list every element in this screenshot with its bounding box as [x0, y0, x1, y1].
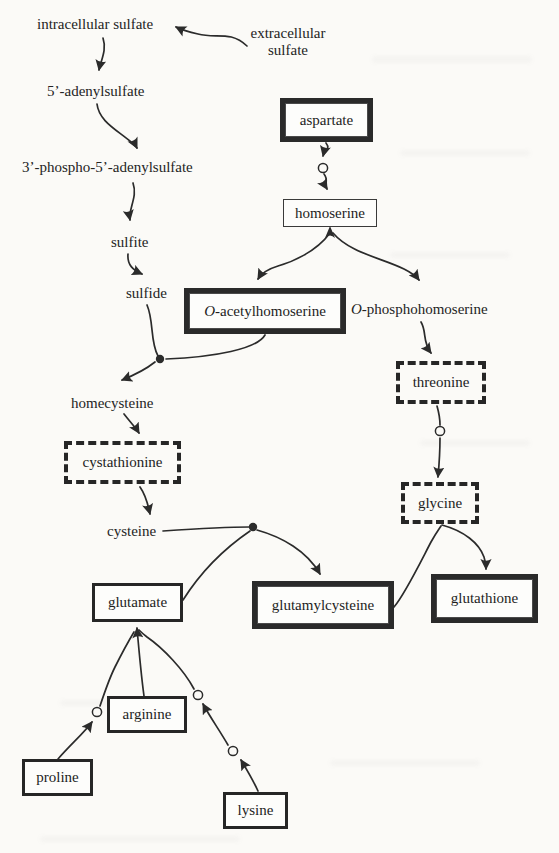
node-arginine: arginine	[107, 696, 187, 733]
node-arginine-label: arginine	[123, 706, 172, 723]
label-extracellular-sulfate: extracellular sulfate	[240, 25, 336, 60]
label-o-phosphohomoserine: O-phosphohomoserine	[351, 301, 488, 318]
node-proline: proline	[22, 759, 93, 796]
arrow-homoserine-to-acetylhomoserine	[258, 233, 330, 279]
arrow-cystathionine-to-cysteine	[140, 487, 150, 514]
node-threonine: threonine	[396, 361, 486, 404]
step-circle-aspartate-homoserine	[318, 163, 327, 172]
node-cystathionine-label: cystathionine	[83, 454, 163, 471]
node-glycine-label: glycine	[418, 495, 462, 512]
junction-dot-cysteine-glutamate	[249, 523, 257, 531]
arrow-proline-to-circle	[58, 722, 92, 759]
arrow-junction-to-homecysteine	[122, 362, 155, 380]
step-circle-lysine-path-upper	[193, 690, 202, 699]
arrow-homoserine-to-phosphohomoserine	[333, 233, 419, 280]
arrow-arginine-to-glutamate	[137, 628, 144, 696]
step-circle-lysine-path-lower	[228, 746, 237, 755]
node-lysine: lysine	[223, 792, 288, 829]
node-homoserine-label: homoserine	[295, 205, 365, 222]
node-aspartate: aspartate	[280, 98, 373, 142]
label-cysteine: cysteine	[107, 523, 156, 540]
junction-dot-sulfide-acetylhomoserine	[156, 355, 164, 363]
label-sulfite: sulfite	[111, 234, 149, 251]
label-extracellular-sulfate-line2: sulfate	[240, 42, 336, 59]
node-o-acetylhomoserine-italic: O	[204, 303, 215, 319]
node-glutamate: glutamate	[92, 583, 183, 622]
arrow-adenylsulfate-to-phospho	[97, 104, 137, 148]
node-cystathionine: cystathionine	[64, 441, 181, 484]
node-glutamylcysteine-label: glutamylcysteine	[272, 597, 374, 614]
node-glycine: glycine	[401, 482, 479, 524]
line-circle-to-glutamate-right	[139, 630, 194, 689]
node-glutamate-label: glutamate	[108, 594, 167, 611]
label-phospho-adenylsulfate: 3’-phospho-5’-adenylsulfate	[22, 159, 193, 176]
node-threonine-label: threonine	[413, 374, 470, 391]
label-extracellular-sulfate-line1: extracellular	[240, 25, 336, 42]
arrow-phosphohomoserine-to-threonine	[421, 322, 431, 353]
arrow-sulfite-to-sulfide	[128, 254, 142, 274]
arrow-circle-to-homoserine	[324, 174, 327, 189]
label-o-phosphohomoserine-italic: O	[351, 301, 362, 317]
arrow-circle-to-circle-lysine-path	[203, 704, 228, 745]
arrow-circle-to-glycine	[438, 438, 440, 477]
line-acetylhomoserine-to-junction	[166, 335, 265, 359]
node-proline-label: proline	[36, 769, 79, 786]
arrow-phospho-to-sulfite	[130, 183, 135, 220]
line-sulfide-to-junction	[147, 305, 158, 356]
line-cysteine-to-junction	[163, 527, 249, 531]
label-intracellular-sulfate: intracellular sulfate	[37, 16, 153, 33]
label-o-phosphohomoserine-rest: -phosphohomoserine	[362, 301, 488, 317]
label-adenylsulfate: 5’-adenylsulfate	[47, 83, 144, 100]
arrow-threonine-to-circle	[437, 406, 440, 425]
arrowhead-into-homoserine	[325, 226, 335, 238]
line-circle-to-glutamate-left	[100, 632, 134, 706]
node-glutathione-label: glutathione	[451, 590, 519, 607]
node-lysine-label: lysine	[238, 802, 274, 819]
arrow-intracellular-to-adenylsulfate	[99, 38, 104, 70]
label-sulfide: sulfide	[126, 285, 167, 302]
arrow-homecysteine-to-cystathionine	[124, 414, 139, 433]
label-homecysteine: homecysteine	[71, 395, 153, 412]
node-o-acetylhomoserine-rest: -acetylhomoserine	[215, 303, 326, 319]
arrow-lysine-to-circle	[241, 760, 258, 791]
node-glutathione: glutathione	[431, 574, 538, 623]
arrow-junction-to-glutamylcysteine	[257, 530, 320, 574]
node-glutamylcysteine: glutamylcysteine	[252, 581, 394, 629]
arrow-aspartate-to-circle	[323, 143, 328, 156]
node-o-acetylhomoserine-label: O-acetylhomoserine	[204, 303, 326, 320]
node-o-acetylhomoserine: O-acetylhomoserine	[184, 288, 346, 334]
arrow-extracellular-to-intracellular	[176, 27, 247, 46]
node-aspartate-label: aspartate	[300, 112, 353, 129]
line-glutamate-to-junction	[183, 531, 250, 600]
step-circle-proline-path	[92, 707, 101, 716]
node-homoserine: homoserine	[283, 199, 377, 227]
step-circle-threonine-glycine	[435, 426, 444, 435]
arrow-glycine-to-glutathione	[442, 525, 486, 569]
scanned-pathway-figure: intracellular sulfate extracellular sulf…	[0, 0, 559, 853]
